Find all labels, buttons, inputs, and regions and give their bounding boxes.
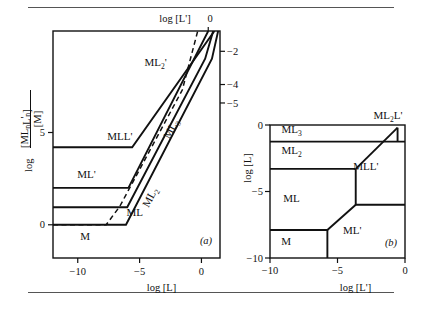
boundary-line — [270, 230, 327, 258]
panel-a-id-label: (a) — [200, 235, 213, 247]
figure-root: −10−5005−2−4−5log [L]log [L']0log[MLnL'n… — [0, 0, 422, 310]
panel-a-top-axis-tick-label: 0 — [207, 13, 212, 24]
panel-a-region-label: MLL' — [107, 130, 132, 142]
y-tick-label: −10 — [247, 253, 263, 264]
panel-b-region-label: MLL' — [353, 160, 378, 172]
x-tick-label: −5 — [332, 265, 343, 276]
panel-b-id-label: (b) — [385, 237, 398, 249]
x-tick-label: 0 — [199, 266, 204, 277]
panel-a-region-label: M — [80, 230, 90, 242]
right-tick-label: −2 — [227, 46, 238, 57]
x-tick-label: −5 — [134, 266, 145, 277]
panel-b-region-label: ML — [283, 192, 300, 204]
y-axis-label-log: log — [23, 158, 34, 172]
panel-a-x-axis-label: log [L] — [147, 282, 176, 293]
panel-b-x-axis-label: log [L'] — [340, 282, 371, 293]
x-tick-label: −10 — [70, 266, 86, 277]
panel-a-top-axis-label: log [L'] — [159, 13, 190, 24]
y-axis-label-denominator: [M] — [32, 111, 43, 127]
panel-a-region-label: ML' — [77, 168, 96, 180]
y-tick-label: 0 — [40, 219, 45, 230]
boundary-line — [356, 169, 405, 205]
right-tick-label: −5 — [227, 98, 238, 109]
panel-b-region-label: ML2 — [281, 144, 302, 159]
panel-a-curves — [53, 31, 218, 225]
y-tick-label: 5 — [40, 127, 45, 138]
panel-b: −10−500−5−10log [L']log [L]ML2L'ML3ML2ML… — [242, 109, 408, 293]
panel-a: −10−5005−2−4−5log [L]log [L']0log[MLnL'n… — [19, 13, 239, 293]
y-tick-label: 0 — [258, 120, 263, 131]
panel-a-region-label: ML2' — [145, 56, 167, 71]
svg-text:log [L]: log [L] — [242, 153, 253, 182]
x-tick-label: −10 — [262, 265, 278, 276]
panel-b-region-label: ML' — [343, 224, 362, 236]
panel-b-y-axis-label: log [L] — [242, 153, 253, 182]
figure-plot-area: −10−5005−2−4−5log [L]log [L']0log[MLnL'n… — [0, 0, 422, 310]
right-tick-label: −4 — [227, 79, 239, 90]
x-tick-label: 0 — [402, 265, 407, 276]
y-tick-label: −5 — [252, 186, 263, 197]
panel-a-region-label: ML — [126, 206, 143, 218]
panel-b-region-label: M — [281, 235, 291, 247]
panel-a-region-label: ML2 — [140, 185, 163, 210]
y-axis-label-numerator: [MLnL'n] — [19, 109, 32, 148]
panel-b-corner-label: ML2L' — [373, 109, 402, 124]
